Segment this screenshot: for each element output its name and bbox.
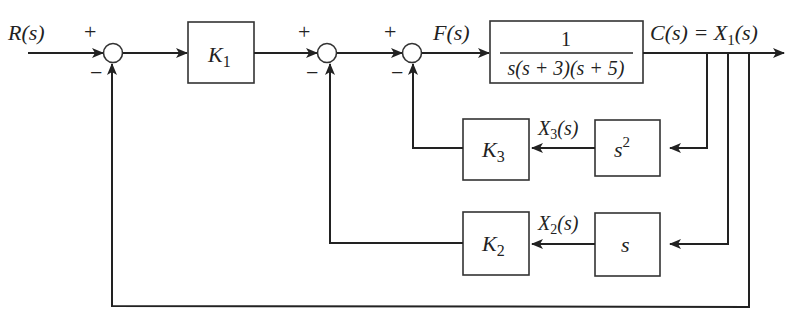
s-label: s (621, 232, 630, 257)
signal-x2-label: X2(s) (537, 212, 579, 237)
sum3-minus-sign: − (391, 60, 403, 85)
sum1-plus-sign: + (84, 19, 96, 44)
branch-to-s2-block (670, 53, 707, 148)
summing-junction-3 (403, 44, 422, 63)
signal-f-label: F(s) (432, 20, 470, 45)
signal-x3-label: X3(s) (537, 117, 579, 142)
plant-numerator: 1 (561, 28, 571, 50)
output-label: C(s) = X1(s) (650, 20, 758, 48)
sum2-plus-sign: + (298, 19, 310, 44)
sum1-minus-sign: − (90, 60, 102, 85)
plant-denominator: s(s + 3)(s + 5) (508, 57, 625, 80)
summing-junction-1 (104, 44, 123, 63)
sum3-plus-sign: + (384, 19, 396, 44)
summing-junction-2 (318, 44, 337, 63)
input-label: R(s) (7, 20, 45, 45)
block-diagram: R(s) + − K1 + − + − F(s) 1 s(s + 3)(s + … (0, 0, 801, 323)
k3-feedback-to-sum3 (413, 64, 463, 148)
sum2-minus-sign: − (306, 60, 318, 85)
k2-feedback-to-sum2 (330, 64, 463, 243)
